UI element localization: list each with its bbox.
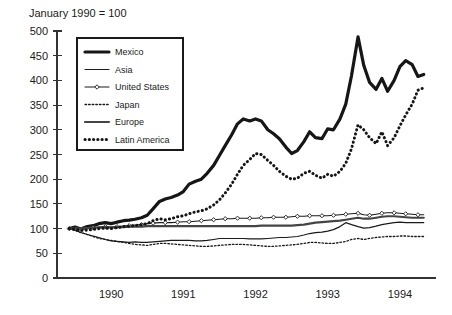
legend-label: Europe (115, 117, 144, 127)
x-tick-label: 1993 (315, 288, 339, 300)
y-tick-label: 400 (30, 74, 48, 86)
y-tick-label: 250 (30, 149, 48, 161)
chart-title: January 1990 = 100 (29, 7, 127, 19)
chart-background (0, 0, 452, 315)
x-tick-label: 1991 (171, 288, 195, 300)
y-tick-label: 350 (30, 99, 48, 111)
y-tick-label: 200 (30, 173, 48, 185)
y-tick-label: 0 (42, 272, 48, 284)
x-tick-label: 1992 (243, 288, 267, 300)
x-tick-label: 1994 (388, 288, 412, 300)
y-tick-label: 450 (30, 50, 48, 62)
economic-index-line-chart: January 1990 = 100 050100150200250300350… (0, 0, 452, 315)
legend-label: Japan (115, 100, 140, 110)
legend-label: Asia (115, 65, 133, 75)
y-tick-label: 300 (30, 124, 48, 136)
legend-label: Mexico (115, 47, 144, 57)
chart-legend: MexicoAsiaUnited StatesJapanEuropeLatin … (77, 38, 183, 150)
legend-label: United States (115, 82, 170, 92)
y-tick-label: 150 (30, 198, 48, 210)
y-tick-label: 100 (30, 223, 48, 235)
legend-label: Latin America (115, 135, 170, 145)
x-tick-label: 1990 (99, 288, 123, 300)
y-tick-label: 500 (30, 25, 48, 37)
y-tick-label: 50 (36, 247, 48, 259)
